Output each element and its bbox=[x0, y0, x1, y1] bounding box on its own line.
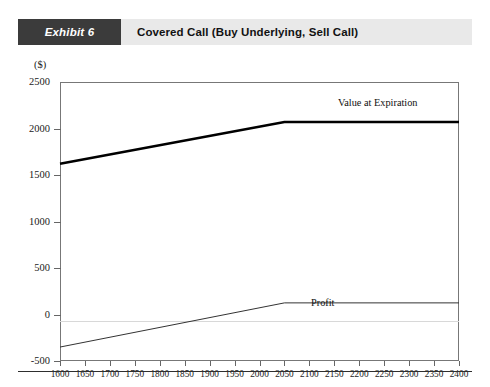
exhibit-header: Exhibit 6 Covered Call (Buy Underlying, … bbox=[18, 19, 472, 45]
footer-rule bbox=[18, 371, 472, 372]
series-label-profit: Profit bbox=[311, 297, 334, 308]
series-line bbox=[60, 303, 459, 347]
exhibit-number-tag: Exhibit 6 bbox=[18, 19, 121, 45]
exhibit-page: Exhibit 6 Covered Call (Buy Underlying, … bbox=[0, 0, 490, 387]
series-label-value-at-expiration: Value at Expiration bbox=[338, 97, 418, 108]
series-lines bbox=[0, 45, 490, 365]
series-line bbox=[60, 122, 459, 164]
exhibit-title: Covered Call (Buy Underlying, Sell Call) bbox=[121, 26, 358, 38]
exhibit-title-bar: Covered Call (Buy Underlying, Sell Call) bbox=[121, 19, 472, 45]
chart: ($) -50005001000150020002500 16001650170… bbox=[0, 45, 490, 365]
